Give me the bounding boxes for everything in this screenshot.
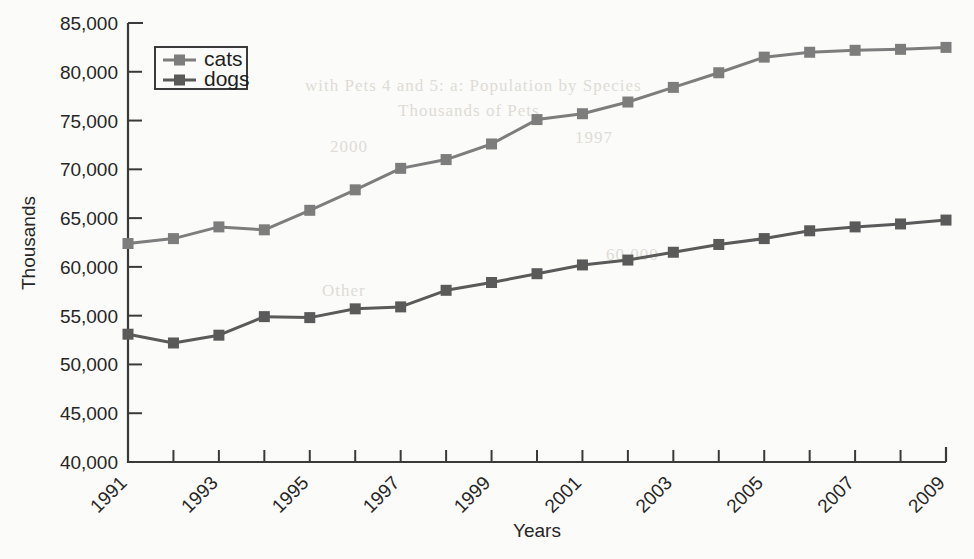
data-point [441,154,452,165]
data-point [123,238,134,249]
legend-label-dogs: dogs [204,67,250,90]
data-point [668,82,679,93]
data-point [213,330,224,341]
data-point [804,47,815,58]
y-tick-label: 65,000 [60,208,118,229]
data-point [350,303,361,314]
legend-marker-cats [174,55,185,66]
y-tick-label: 40,000 [60,452,118,473]
y-tick-label: 85,000 [60,13,118,34]
data-point [850,45,861,56]
y-axis-title: Thousands [18,196,39,290]
data-point [168,233,179,244]
y-tick-label: 50,000 [60,354,118,375]
axis-frame [128,23,946,462]
data-point [168,337,179,348]
y-tick-label: 45,000 [60,403,118,424]
data-point [759,233,770,244]
data-point [532,268,543,279]
x-tick-label: 1999 [450,472,495,517]
x-tick-label: 1991 [86,472,131,517]
data-point [532,114,543,125]
data-point [622,97,633,108]
data-point [441,285,452,296]
data-point [395,301,406,312]
data-point [713,239,724,250]
data-point [395,163,406,174]
data-point [259,224,270,235]
data-point [895,44,906,55]
data-point [486,138,497,149]
data-point [304,205,315,216]
series-line-dogs [128,220,946,343]
legend-marker-dogs [174,75,185,86]
data-point [304,312,315,323]
data-point [577,108,588,119]
data-point [804,225,815,236]
x-axis-title: Years [513,520,561,541]
y-tick-label: 80,000 [60,62,118,83]
data-point [213,221,224,232]
series-dogs [123,215,952,349]
series-line-cats [128,47,946,243]
x-tick-label: 2009 [904,472,949,517]
data-point [941,42,952,53]
x-tick-label: 1995 [268,472,313,517]
data-point [850,221,861,232]
data-point [123,329,134,340]
x-tick-label: 1997 [359,472,404,517]
y-tick-label: 55,000 [60,306,118,327]
data-point [350,184,361,195]
x-axis-ticks: 1991199319951997199920012003200520072009 [86,450,949,517]
data-point [668,247,679,258]
data-point [259,311,270,322]
data-point [577,259,588,270]
x-tick-label: 2001 [541,472,586,517]
line-chart: 40,00045,00050,00055,00060,00065,00070,0… [0,0,974,559]
chart-legend[interactable]: catsdogs [155,47,250,90]
y-tick-label: 60,000 [60,257,118,278]
data-point [622,255,633,266]
x-tick-label: 2003 [631,472,676,517]
data-point [759,52,770,63]
data-point [486,277,497,288]
x-tick-label: 1993 [177,472,222,517]
y-tick-label: 70,000 [60,159,118,180]
data-point [713,67,724,78]
chart-figure: with Pets 4 and 5: a: Population by Spec… [0,0,974,559]
data-point [895,218,906,229]
data-point [941,215,952,226]
x-tick-label: 2007 [813,472,858,517]
x-tick-label: 2005 [722,472,767,517]
y-tick-label: 75,000 [60,111,118,132]
